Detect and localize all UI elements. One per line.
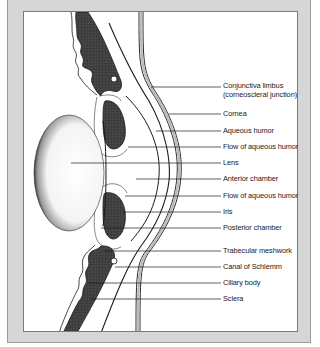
label-text: Conjunctiva limbus (223, 81, 297, 90)
label-posterior-chamber: Posterior chamber (223, 223, 282, 232)
label-cornea: Cornea (223, 109, 247, 118)
label-conjunctiva-limbus: Conjunctiva limbus (corneoscleral juncti… (223, 81, 297, 99)
label-ciliary-body: Ciliary body (223, 278, 260, 287)
label-canal-of-schlemm: Canal of Schlemm (223, 262, 282, 271)
label-anterior-chamber: Anterior chamber (223, 174, 278, 183)
label-lens: Lens (223, 158, 239, 167)
label-iris: Iris (223, 207, 232, 216)
lens (34, 115, 104, 231)
canal-of-schlemm-lower (111, 258, 117, 264)
label-flow-aqueous-humor-1: Flow of aqueous humor (223, 142, 298, 151)
figure-caption: circulation. (26, 0, 82, 2)
label-aqueous-humor: Aqueous humor (223, 126, 274, 135)
ciliary-body-upper (76, 12, 122, 96)
label-trabecular-meshwork: Trabecular meshwork (223, 246, 292, 255)
sclera-band (136, 12, 181, 332)
label-text-secondary: (corneoscleral junction) (223, 90, 297, 99)
anterior-chamber-curve (126, 96, 159, 241)
canal-of-schlemm-upper (111, 76, 117, 82)
label-flow-aqueous-humor-2: Flow of aqueous humor (223, 191, 298, 200)
iris-lower (103, 193, 125, 239)
iris-upper (103, 101, 125, 149)
label-sclera: Sclera (223, 294, 243, 303)
